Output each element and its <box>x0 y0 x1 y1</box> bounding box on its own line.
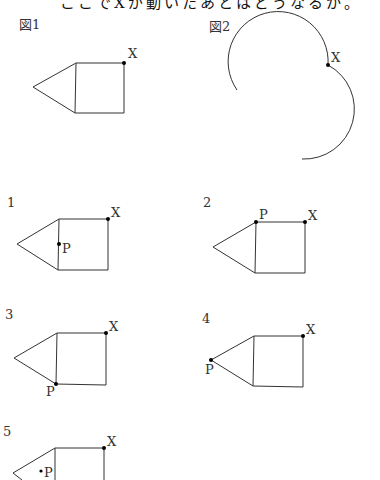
opt2-label-p: P <box>259 207 268 222</box>
opt1-label-p: P <box>62 241 71 256</box>
opt5-label-p: P <box>44 465 53 480</box>
fig2-label-x: X <box>331 50 341 65</box>
opt4-point-x <box>301 334 305 338</box>
opt2-point-x <box>303 220 307 224</box>
figure-2-arcs <box>228 12 354 160</box>
opt2-point-p <box>254 220 258 224</box>
opt5-label-x: X <box>107 434 117 449</box>
opt4-label-p: P <box>205 362 214 377</box>
option-2-shape <box>213 222 305 273</box>
figure-1-shape <box>33 63 124 113</box>
opt5-point-p <box>39 469 42 472</box>
fig1-label-x: X <box>128 46 138 61</box>
option-4-shape <box>211 336 303 387</box>
opt3-label-x: X <box>109 319 119 334</box>
opt5-point-x <box>102 446 106 450</box>
option-3-shape <box>14 333 106 385</box>
opt3-label-p: P <box>46 384 55 399</box>
opt2-label-x: X <box>308 208 318 223</box>
opt1-point-x <box>106 217 110 221</box>
opt3-point-x <box>104 331 108 335</box>
opt1-label-x: X <box>111 205 121 220</box>
fig1-point-x <box>122 61 126 65</box>
opt1-point-p <box>57 242 61 246</box>
option-5-shape <box>13 448 104 480</box>
figures-canvas: X X X P X P X P X P X P <box>0 0 380 480</box>
fig2-point-x <box>326 63 330 67</box>
opt4-label-x: X <box>306 322 316 337</box>
